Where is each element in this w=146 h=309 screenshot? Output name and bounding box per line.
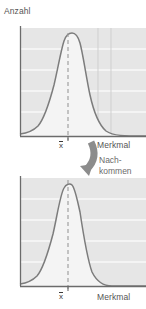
bottom-mean-label-text: x bbox=[59, 292, 63, 301]
figure-root: Anzahl Merkmal x Nach- kommen bbox=[0, 0, 146, 309]
top-y-axis-label: Anzahl bbox=[4, 6, 31, 16]
top-chart-panel bbox=[0, 0, 146, 146]
bottom-chart-svg bbox=[0, 160, 146, 309]
top-chart-svg bbox=[0, 0, 146, 146]
bottom-chart-panel bbox=[0, 160, 146, 309]
bottom-mean-label: x bbox=[59, 292, 63, 301]
bottom-x-axis-label: Merkmal bbox=[97, 292, 130, 302]
